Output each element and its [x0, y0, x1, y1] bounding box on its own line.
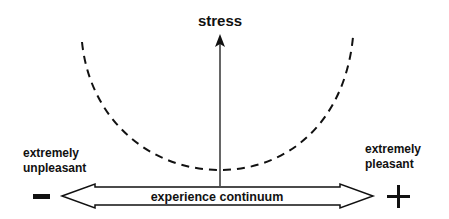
right-pole-line1: extremely — [365, 142, 421, 156]
stress-label: stress — [198, 12, 242, 29]
minus-sign-icon — [33, 194, 50, 199]
right-pole-line2: pleasant — [365, 157, 414, 171]
plus-sign-icon — [387, 185, 410, 208]
continuum-label: experience continuum — [151, 190, 284, 204]
stress-curve — [82, 37, 353, 170]
left-pole-line1: extremely — [23, 146, 79, 160]
stress-diagram: stress experience continuum extremely un… — [0, 0, 449, 219]
left-pole-line2: unpleasant — [23, 161, 86, 175]
